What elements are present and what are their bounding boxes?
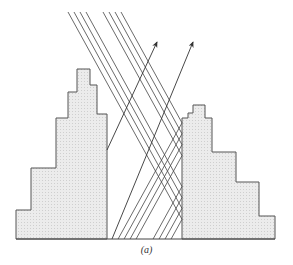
ray: [109, 12, 182, 239]
figure-caption: (a): [0, 244, 293, 255]
street-canyon-diagram: [0, 0, 293, 265]
right-building: [182, 105, 275, 239]
left-building: [16, 69, 107, 239]
